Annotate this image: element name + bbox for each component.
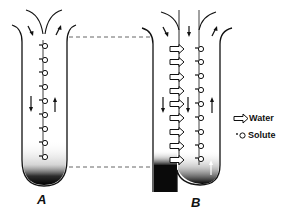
tube-a-concentration bbox=[23, 140, 66, 185]
tube-b bbox=[142, 10, 232, 192]
water-legend-icon bbox=[234, 114, 248, 123]
outflow-arrow-icon bbox=[56, 25, 62, 35]
outflow-arrow-icon bbox=[212, 26, 218, 36]
tube-b-solid-block bbox=[154, 165, 177, 192]
down-arrow-icon bbox=[29, 96, 33, 112]
tube-b-concentration bbox=[178, 150, 219, 184]
legend-solute-label: Solute bbox=[248, 130, 276, 140]
up-arrow-icon bbox=[53, 97, 57, 112]
panel-label-b: B bbox=[191, 195, 200, 210]
legend bbox=[234, 114, 248, 138]
down-arrow-icon bbox=[186, 97, 190, 113]
legend-water-label: Water bbox=[249, 113, 274, 123]
tube-b-water-arrows bbox=[170, 45, 184, 165]
tube-b-solutes bbox=[195, 46, 204, 161]
down-arrow-icon bbox=[161, 97, 165, 113]
inflow-arrow-icon bbox=[28, 26, 34, 36]
inflow-arrow-icon bbox=[163, 27, 169, 37]
tube-a-solutes bbox=[39, 43, 48, 159]
dashed-connectors bbox=[69, 37, 152, 167]
solute-legend-icon bbox=[236, 133, 245, 138]
up-arrow-icon bbox=[210, 97, 214, 113]
osmosis-diagram bbox=[0, 0, 293, 212]
tube-a bbox=[12, 10, 76, 186]
down-arrow-icon bbox=[187, 26, 191, 37]
panel-label-a: A bbox=[37, 192, 46, 207]
